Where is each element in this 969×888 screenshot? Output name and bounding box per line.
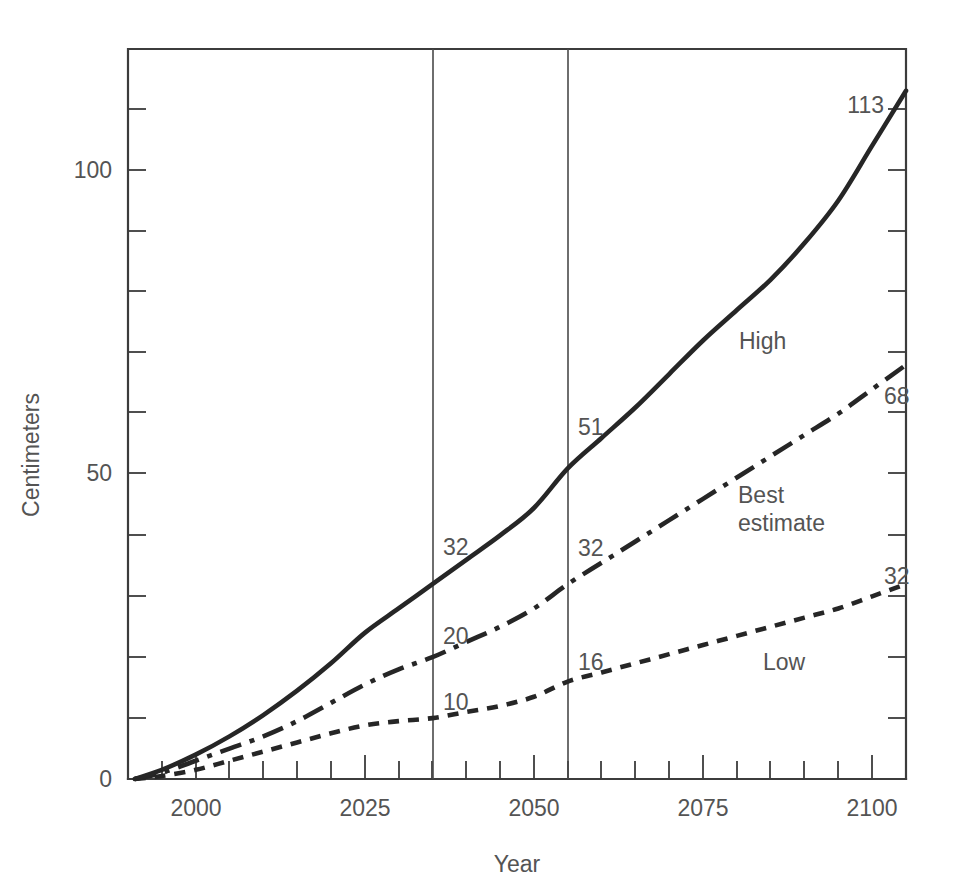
series-line-best-estimate [135, 365, 906, 779]
y-tick-label-100: 100 [74, 157, 112, 183]
chart-canvas: 100 50 0 2000 2025 2050 2075 2100 Centim… [0, 0, 969, 888]
value-label-best-2050: 32 [578, 535, 604, 561]
value-label-low-2100: 32 [884, 563, 910, 589]
x-axis-title: Year [494, 851, 541, 877]
sea-level-rise-chart: 100 50 0 2000 2025 2050 2075 2100 Centim… [0, 0, 969, 888]
series-line-low [135, 584, 906, 779]
y-tick-label-50: 50 [86, 460, 112, 486]
x-tick-label-2025: 2025 [339, 795, 390, 821]
series-label-best-estimate-line1: Best [738, 482, 785, 508]
series-label-high: High [739, 328, 786, 354]
value-label-best-2100: 68 [884, 383, 910, 409]
value-label-high-2100: 113 [847, 92, 884, 118]
x-axis-ticks [162, 755, 872, 779]
series-line-high [135, 91, 906, 779]
y-tick-label-0: 0 [99, 766, 112, 792]
series-label-low: Low [763, 649, 806, 675]
value-label-low-2030: 10 [443, 689, 469, 715]
right-axis-ticks [888, 109, 906, 718]
series-label-best-estimate-line2: estimate [738, 510, 825, 536]
x-tick-label-2050: 2050 [508, 795, 559, 821]
value-label-best-2030: 20 [443, 623, 469, 649]
value-label-high-2050: 51 [578, 414, 604, 440]
value-label-low-2050: 16 [578, 649, 604, 675]
value-label-high-2030: 32 [443, 534, 469, 560]
y-axis-title: Centimeters [18, 393, 44, 517]
y-axis-ticks [128, 109, 146, 779]
x-tick-label-2100: 2100 [846, 795, 897, 821]
x-tick-label-2000: 2000 [170, 795, 221, 821]
x-tick-label-2075: 2075 [677, 795, 728, 821]
